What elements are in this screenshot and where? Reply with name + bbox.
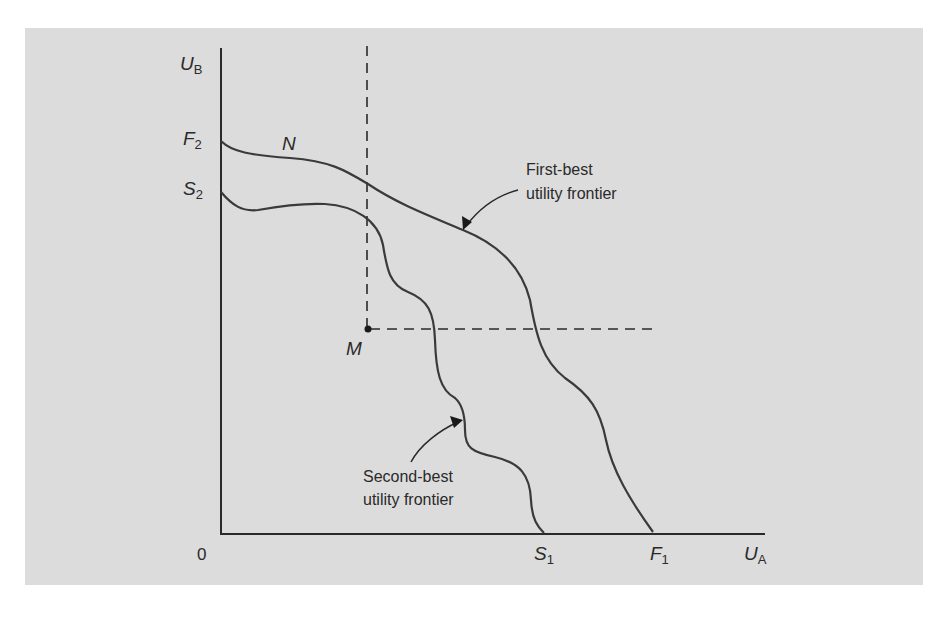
origin-label: 0 — [197, 545, 206, 564]
x-axis-label: UA — [744, 543, 767, 567]
second-best-annotation: Second-best utility frontier — [363, 468, 457, 508]
f2-label: F2 — [183, 128, 202, 152]
utility-frontier-diagram: UB UA 0 F2 S2 S1 F1 N M First-best utili… — [0, 0, 952, 622]
second-best-arrow — [411, 422, 458, 462]
point-m-label: M — [346, 338, 362, 359]
second-best-arrowhead-icon — [450, 416, 463, 428]
point-n-label: N — [282, 133, 296, 154]
point-m-marker — [365, 326, 372, 333]
first-best-arrow — [466, 190, 518, 226]
f1-label: F1 — [650, 543, 669, 567]
s2-label: S2 — [183, 178, 203, 202]
y-axis-label: UB — [180, 53, 202, 77]
s1-label: S1 — [534, 543, 554, 567]
first-best-annotation: First-best utility frontier — [526, 161, 617, 202]
first-best-arrowhead-icon — [462, 216, 472, 230]
